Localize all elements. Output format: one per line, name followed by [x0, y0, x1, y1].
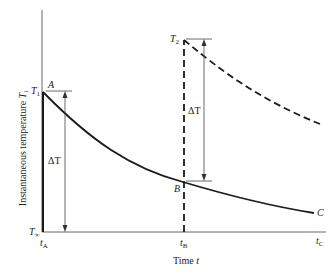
tc-sub: C — [319, 240, 324, 248]
x-axis-symbol: t — [196, 255, 199, 266]
delta-t-right-text: ΔT — [188, 105, 201, 116]
ta-tick-label: tA — [40, 238, 48, 250]
diagram-canvas — [0, 0, 336, 274]
y-axis-symbol: T — [17, 93, 28, 99]
point-a-label: A — [48, 80, 54, 90]
x-axis-label: Time t — [173, 256, 199, 266]
tc-tick-label: tC — [316, 236, 323, 248]
delta-t-right-label: ΔT — [188, 106, 201, 116]
delta-t-left-label: ΔT — [48, 156, 61, 166]
point-b-label: B — [174, 184, 180, 194]
solid-decay-curve — [43, 92, 314, 213]
right-delta-arrowhead-up — [202, 39, 207, 46]
t2-sub: 2 — [176, 38, 180, 46]
y-axis-label: Instantaneous temperature Ti — [17, 64, 30, 234]
t1-sub: 1 — [37, 90, 41, 98]
x-axis-label-text: Time — [173, 255, 194, 266]
y-axis-symbol-sub: i — [22, 91, 30, 93]
t2-label: T2 — [170, 34, 179, 46]
left-delta-arrowhead-up — [63, 91, 68, 98]
y-axis-label-text: Instantaneous temperature — [17, 101, 28, 206]
t1-label: T1 — [31, 86, 40, 98]
tb-tick-label: tB — [180, 238, 187, 250]
point-c-label: C — [317, 208, 324, 218]
t-infinity-sub: ∞ — [35, 231, 40, 239]
right-delta-arrowhead-down — [202, 174, 207, 181]
delta-t-left-text: ΔT — [48, 155, 61, 166]
tb-sub: B — [183, 242, 188, 250]
left-delta-arrowhead-down — [63, 225, 68, 232]
t-infinity-label: T∞ — [29, 227, 40, 239]
ta-sub: A — [43, 242, 48, 250]
